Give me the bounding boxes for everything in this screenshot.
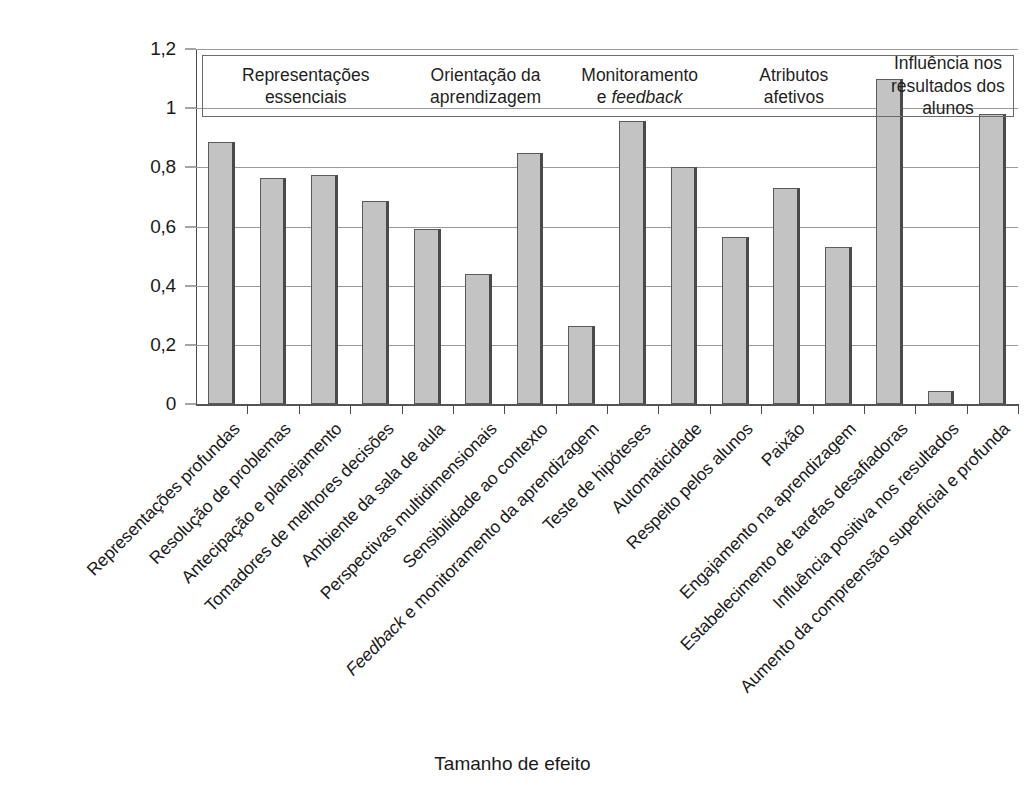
category-group-line1: Representações [242,64,369,86]
x-axis-label: Perspectivas multidimensionais [0,420,500,797]
x-axis-label: Engajamento na aprendizagem [352,420,859,797]
bar [465,274,492,404]
plot-area: RepresentaçõesessenciaisOrientação daapr… [196,49,1018,404]
bar [773,188,800,404]
x-axis-label: Tomadores de melhores decisões [0,420,397,797]
bar [414,229,441,404]
x-axis-label: Feedback e monitoramento da aprendizagem [95,420,602,797]
x-axis-label: Ambiente da sala de aula [0,420,449,797]
y-tick-label: 1 [56,97,176,119]
bar [671,167,698,404]
bar [208,142,235,404]
x-axis-label: Respeito pelos alunos [249,420,756,797]
x-axis-label: Estabelecimento de tarefas desafiadoras [404,420,911,797]
y-tick-mark [185,404,196,405]
x-tick-mark [607,404,608,414]
bar [260,178,287,404]
bar [362,201,389,404]
y-tick-mark [185,167,196,168]
x-axis-label: Resolução de problemas [0,420,294,797]
category-header-band: RepresentaçõesessenciaisOrientação daapr… [202,55,1014,117]
y-tick-mark [185,285,196,286]
x-tick-mark [864,404,865,414]
x-axis-label: Sensibilidade ao contexto [44,420,551,797]
category-group-line1: Monitoramento [581,64,698,86]
category-group-line1: Influência nos [873,52,1023,74]
x-tick-mark [915,404,916,414]
x-axis-title: Tamanho de efeito [0,753,1025,775]
y-tick-label: 0,4 [56,275,176,297]
category-group-label: Monitoramentoe feedback [563,56,717,116]
x-axis-label: Teste de hipóteses [147,420,654,797]
x-axis-label: Aumento da compreensão superficial e pro… [506,420,1013,797]
bar [928,391,955,404]
x-axis-label: Representações profundas [0,420,243,797]
category-group-line2: resultados dos alunos [873,75,1023,120]
y-tick-label: 0,8 [56,156,176,178]
category-group-label: Representaçõesessenciais [203,56,409,116]
x-tick-mark [967,404,968,414]
y-tick-mark [185,49,196,50]
category-group-line1: Orientação da [430,64,541,86]
x-tick-mark [813,404,814,414]
bar [979,114,1006,404]
y-tick-label: 0 [56,393,176,415]
x-tick-mark [350,404,351,414]
y-tick-mark [185,108,196,109]
x-tick-mark [1018,404,1019,414]
bar [619,121,646,404]
x-tick-mark [658,404,659,414]
x-tick-mark [504,404,505,414]
category-group-line2: e feedback [581,86,698,108]
bar [722,237,749,404]
category-group-line2: afetivos [759,86,828,108]
x-tick-mark [247,404,248,414]
y-tick-label: 1,2 [56,38,176,60]
y-tick-mark [185,226,196,227]
bar [311,175,338,404]
x-tick-mark [556,404,557,414]
category-group-line2: aprendizagem [430,86,541,108]
bar [568,326,595,404]
bar [876,79,903,404]
category-group-label: Orientação daaprendizagem [409,56,563,116]
x-tick-mark [761,404,762,414]
chart-figure: 00,20,40,60,811,2 Representaçõesessencia… [0,0,1025,797]
x-tick-mark [710,404,711,414]
category-group-line2: essenciais [242,86,369,108]
x-axis-label: Paixão [301,420,808,797]
x-tick-mark [453,404,454,414]
y-tick-label: 0,2 [56,334,176,356]
y-tick-label: 0,6 [56,216,176,238]
category-group-label: Atributosafetivos [717,56,871,116]
y-tick-mark [185,344,196,345]
x-tick-mark [299,404,300,414]
x-tick-mark [402,404,403,414]
bar [825,247,852,404]
x-axis-label: Antecipação e planejamento [0,420,346,797]
category-group-label: Influência nosresultados dos alunos [871,56,1025,116]
bar [517,153,544,404]
x-axis-label: Automaticidade [198,420,705,797]
category-group-line1: Atributos [759,64,828,86]
x-axis-label: Influência positiva nos resultados [455,420,962,797]
